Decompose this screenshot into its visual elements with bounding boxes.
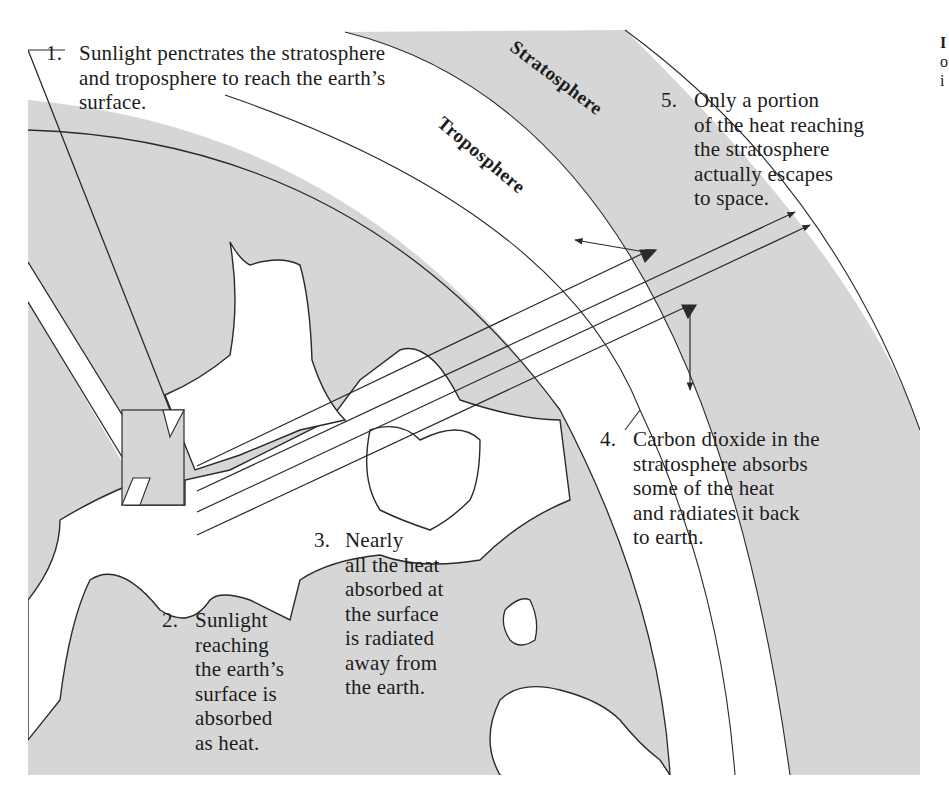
step-2-text: 2. Sunlight reaching the earth’s surface… (162, 608, 284, 755)
step-1-text: 1. Sunlight penctrates the stratosphere … (46, 41, 385, 115)
step-1-number: 1. (46, 41, 62, 66)
step-5-text: 5. Only a portion of the heat reaching t… (661, 88, 864, 211)
step-4-text: 4. Carbon dioxide in the stratosphere ab… (600, 427, 820, 550)
step-3-number: 3. (314, 528, 330, 553)
step-3-text: 3. Nearly all the heat absorbed at the s… (314, 528, 443, 700)
cropped-caption-fragment: I o i (940, 33, 948, 90)
step-5-number: 5. (661, 88, 677, 113)
step-2-number: 2. (162, 608, 178, 633)
step-4-number: 4. (600, 427, 616, 452)
